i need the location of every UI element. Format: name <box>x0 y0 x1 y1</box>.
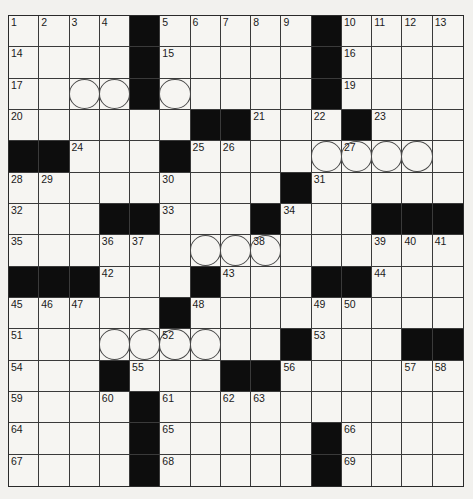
grid-cell[interactable] <box>191 79 221 110</box>
grid-cell[interactable] <box>312 141 342 172</box>
grid-cell[interactable] <box>221 423 251 454</box>
grid-cell[interactable] <box>251 47 281 78</box>
grid-cell[interactable] <box>100 455 130 486</box>
grid-cell[interactable]: 52 <box>160 329 190 360</box>
grid-cell[interactable] <box>402 298 432 329</box>
grid-cell[interactable]: 40 <box>402 235 432 266</box>
grid-cell[interactable] <box>433 110 463 141</box>
grid-cell[interactable] <box>70 361 100 392</box>
grid-cell[interactable] <box>221 79 251 110</box>
grid-cell[interactable] <box>402 79 432 110</box>
grid-cell[interactable] <box>281 47 311 78</box>
grid-cell[interactable] <box>39 361 69 392</box>
grid-cell[interactable] <box>70 110 100 141</box>
grid-cell[interactable] <box>312 204 342 235</box>
grid-cell[interactable] <box>433 141 463 172</box>
grid-cell[interactable] <box>191 392 221 423</box>
grid-cell[interactable] <box>281 298 311 329</box>
grid-cell[interactable]: 15 <box>160 47 190 78</box>
grid-cell[interactable] <box>281 423 311 454</box>
grid-cell[interactable]: 48 <box>191 298 221 329</box>
grid-cell[interactable]: 43 <box>221 267 251 298</box>
grid-cell[interactable] <box>402 110 432 141</box>
grid-cell[interactable] <box>402 47 432 78</box>
grid-cell[interactable]: 17 <box>9 79 39 110</box>
grid-cell[interactable] <box>372 173 402 204</box>
grid-cell[interactable]: 53 <box>312 329 342 360</box>
grid-cell[interactable] <box>342 361 372 392</box>
grid-cell[interactable] <box>281 455 311 486</box>
grid-cell[interactable] <box>191 47 221 78</box>
grid-cell[interactable] <box>70 423 100 454</box>
grid-cell[interactable] <box>191 329 221 360</box>
grid-cell[interactable] <box>221 298 251 329</box>
grid-cell[interactable] <box>39 110 69 141</box>
grid-cell[interactable] <box>100 298 130 329</box>
grid-cell[interactable] <box>191 235 221 266</box>
grid-cell[interactable] <box>402 267 432 298</box>
grid-cell[interactable]: 13 <box>433 16 463 47</box>
grid-cell[interactable]: 38 <box>251 235 281 266</box>
grid-cell[interactable] <box>39 329 69 360</box>
grid-cell[interactable] <box>372 423 402 454</box>
grid-cell[interactable]: 21 <box>251 110 281 141</box>
grid-cell[interactable]: 29 <box>39 173 69 204</box>
grid-cell[interactable]: 68 <box>160 455 190 486</box>
grid-cell[interactable]: 8 <box>251 16 281 47</box>
grid-cell[interactable] <box>130 329 160 360</box>
grid-cell[interactable] <box>160 235 190 266</box>
grid-cell[interactable] <box>433 423 463 454</box>
grid-cell[interactable] <box>160 361 190 392</box>
grid-cell[interactable] <box>100 173 130 204</box>
grid-cell[interactable] <box>221 235 251 266</box>
grid-cell[interactable] <box>372 79 402 110</box>
grid-cell[interactable] <box>312 392 342 423</box>
grid-cell[interactable] <box>372 361 402 392</box>
grid-cell[interactable] <box>70 79 100 110</box>
grid-cell[interactable]: 4 <box>100 16 130 47</box>
grid-cell[interactable] <box>433 79 463 110</box>
grid-cell[interactable] <box>251 173 281 204</box>
grid-cell[interactable] <box>281 267 311 298</box>
grid-cell[interactable] <box>70 173 100 204</box>
grid-cell[interactable]: 14 <box>9 47 39 78</box>
grid-cell[interactable] <box>342 235 372 266</box>
grid-cell[interactable] <box>160 79 190 110</box>
grid-cell[interactable] <box>130 141 160 172</box>
grid-cell[interactable] <box>251 423 281 454</box>
grid-cell[interactable] <box>130 267 160 298</box>
grid-cell[interactable]: 36 <box>100 235 130 266</box>
grid-cell[interactable] <box>70 235 100 266</box>
grid-cell[interactable]: 44 <box>372 267 402 298</box>
grid-cell[interactable] <box>342 392 372 423</box>
grid-cell[interactable] <box>312 235 342 266</box>
grid-cell[interactable] <box>251 455 281 486</box>
grid-cell[interactable]: 45 <box>9 298 39 329</box>
grid-cell[interactable] <box>402 173 432 204</box>
grid-cell[interactable]: 20 <box>9 110 39 141</box>
grid-cell[interactable] <box>160 110 190 141</box>
grid-cell[interactable] <box>130 298 160 329</box>
grid-cell[interactable] <box>251 298 281 329</box>
grid-cell[interactable] <box>191 423 221 454</box>
grid-cell[interactable]: 25 <box>191 141 221 172</box>
grid-cell[interactable]: 11 <box>372 16 402 47</box>
grid-cell[interactable] <box>70 47 100 78</box>
grid-cell[interactable]: 24 <box>70 141 100 172</box>
grid-cell[interactable] <box>191 361 221 392</box>
grid-cell[interactable] <box>39 423 69 454</box>
grid-cell[interactable]: 67 <box>9 455 39 486</box>
grid-cell[interactable] <box>402 392 432 423</box>
grid-cell[interactable]: 60 <box>100 392 130 423</box>
grid-cell[interactable] <box>342 173 372 204</box>
grid-cell[interactable] <box>433 298 463 329</box>
grid-cell[interactable]: 56 <box>281 361 311 392</box>
grid-cell[interactable]: 66 <box>342 423 372 454</box>
grid-cell[interactable]: 2 <box>39 16 69 47</box>
grid-cell[interactable]: 9 <box>281 16 311 47</box>
grid-cell[interactable]: 31 <box>312 173 342 204</box>
grid-cell[interactable] <box>100 47 130 78</box>
grid-cell[interactable]: 28 <box>9 173 39 204</box>
grid-cell[interactable]: 23 <box>372 110 402 141</box>
grid-cell[interactable]: 63 <box>251 392 281 423</box>
